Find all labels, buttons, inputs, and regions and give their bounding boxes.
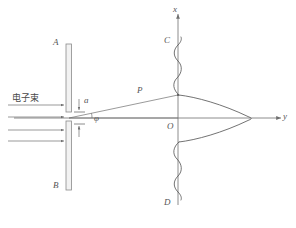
barrier-upper-plate [66,44,72,112]
central-maximum [179,95,251,142]
single-slit-barrier [66,44,72,190]
label-point-p: P [137,86,143,95]
label-axis-x: x [173,5,177,14]
diffraction-figure: A B 电子束 a φ P O C D x y [0,0,296,228]
label-axis-y: y [283,112,287,121]
figure-canvas [0,0,296,228]
label-screen-bottom-D: D [164,198,171,207]
label-barrier-bottom-B: B [53,181,59,190]
point-markers [177,94,179,96]
label-electron-beam-source: 电子束 [12,94,39,103]
intensity-distribution-curve [174,37,251,200]
label-origin-O: O [167,122,174,131]
label-screen-top-C: C [164,36,170,45]
angle-arc-phi [92,113,93,118]
point-p-marker [177,94,179,96]
label-barrier-top-A: A [53,38,59,47]
label-slit-width-a: a [84,96,89,105]
secondary-fringes-upper [174,37,182,95]
secondary-fringes-lower [174,142,182,200]
barrier-lower-plate [66,121,72,190]
label-angle-phi: φ [94,114,99,123]
electron-beam-rays [8,105,64,141]
